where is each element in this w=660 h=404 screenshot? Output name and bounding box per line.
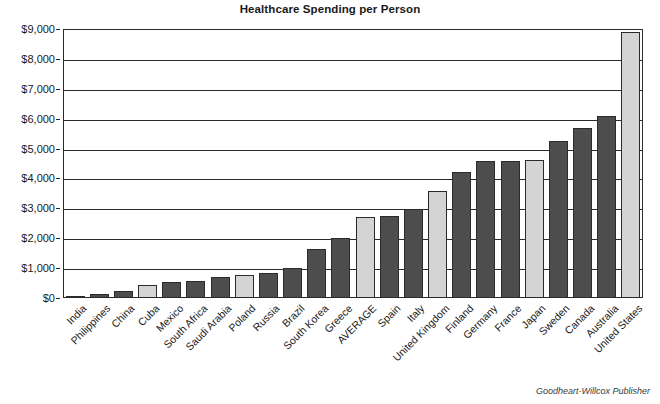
bar xyxy=(356,217,375,298)
y-tick-label: $7,000 xyxy=(21,83,55,95)
bar xyxy=(380,216,399,298)
bar xyxy=(114,291,133,298)
bar xyxy=(138,285,157,298)
y-tick-label: $1,000 xyxy=(21,262,55,274)
bar xyxy=(211,277,230,298)
chart-title: Healthcare Spending per Person xyxy=(0,3,660,15)
y-tick-label: $0 xyxy=(43,292,55,304)
publisher-credit: Goodheart-Willcox Publisher xyxy=(536,386,650,396)
bar xyxy=(428,191,447,298)
y-tick-label: $5,000 xyxy=(21,143,55,155)
y-tick-label: $9,000 xyxy=(21,23,55,35)
bar xyxy=(259,273,278,298)
bar xyxy=(501,161,520,298)
y-tick-mark xyxy=(56,238,60,239)
y-tick-mark xyxy=(56,178,60,179)
bar xyxy=(452,172,471,298)
bar xyxy=(404,209,423,298)
bar xyxy=(597,116,616,298)
bar xyxy=(525,160,544,298)
bar xyxy=(235,275,254,298)
y-tick-mark xyxy=(56,298,60,299)
bar xyxy=(162,282,181,298)
y-tick-label: $2,000 xyxy=(21,232,55,244)
y-tick-mark xyxy=(56,268,60,269)
x-tick-label: Russia xyxy=(251,302,282,333)
bar xyxy=(549,141,568,298)
bar xyxy=(573,128,592,298)
y-tick-mark xyxy=(56,119,60,120)
x-axis: IndiaPhilippinesChinaCubaMexicoSouth Afr… xyxy=(63,298,643,388)
bar xyxy=(476,161,495,298)
y-axis: $9,000$8,000$7,000$6,000$5,000$4,000$3,0… xyxy=(0,29,60,298)
y-tick-mark xyxy=(56,59,60,60)
bar xyxy=(283,268,302,298)
chart-figure: Healthcare Spending per Person $9,000$8,… xyxy=(0,0,660,404)
bar-series xyxy=(63,29,643,298)
bar xyxy=(307,249,326,298)
bar xyxy=(621,32,640,298)
y-tick-label: $3,000 xyxy=(21,202,55,214)
y-tick-mark xyxy=(56,208,60,209)
x-tick-label: China xyxy=(109,302,137,330)
y-tick-label: $6,000 xyxy=(21,113,55,125)
y-tick-mark xyxy=(56,149,60,150)
y-tick-label: $4,000 xyxy=(21,172,55,184)
x-tick-label: Spain xyxy=(375,302,402,329)
bar xyxy=(186,281,205,298)
bar xyxy=(331,238,350,298)
y-tick-mark xyxy=(56,29,60,30)
y-tick-mark xyxy=(56,89,60,90)
y-tick-label: $8,000 xyxy=(21,53,55,65)
